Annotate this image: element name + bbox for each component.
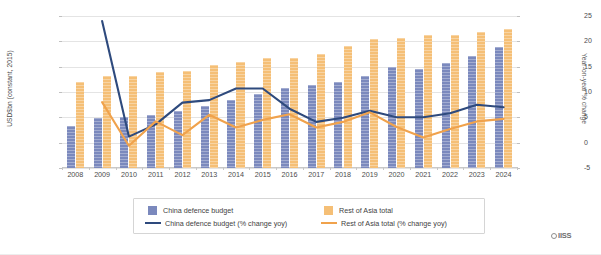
x-axis-tick-label: 2024 (490, 170, 517, 179)
x-axis-tick-label: 2014 (223, 170, 250, 179)
y-axis-right-tick-label: 5 (584, 113, 601, 121)
x-axis-tickmark (196, 167, 197, 170)
x-axis-tickmark (142, 167, 143, 170)
chart-legend: China defence budget Rest of Asia total … (133, 198, 485, 234)
y-axis-right-tickmark (517, 67, 520, 68)
legend-label-china-pct: China defence budget (% change yoy) (165, 219, 287, 228)
x-axis-tick-label: 2015 (249, 170, 276, 179)
x-axis-tick-label: 2008 (62, 170, 89, 179)
y-axis-right-tick-label: 0 (584, 139, 601, 147)
legend-swatch-china-budget (148, 206, 157, 215)
y-axis-right-tick-label: -5 (584, 164, 601, 172)
x-axis-tickmark (249, 167, 250, 170)
gridline (62, 168, 517, 169)
x-axis-tick-label: 2009 (89, 170, 116, 179)
iiss-logo-text: IISS (558, 231, 571, 240)
legend-label-china-budget: China defence budget (163, 206, 233, 215)
y-axis-right-tickmark (517, 41, 520, 42)
x-axis-tickmark (116, 167, 117, 170)
plot-area: 050100150200250300 -50510152025 (62, 16, 517, 168)
y-axis-left-tickmark (59, 67, 62, 68)
y-axis-right-tick-label: 10 (584, 88, 601, 96)
x-axis-tick-label: 2022 (437, 170, 464, 179)
x-axis-tickmark (383, 167, 384, 170)
x-axis-tick-label: 2020 (383, 170, 410, 179)
x-axis-tick-label: 2016 (276, 170, 303, 179)
y-axis-right-tickmark (517, 92, 520, 93)
y-axis-right-tickmark (517, 16, 520, 17)
x-axis-tickmark (463, 167, 464, 170)
circle-icon (551, 233, 557, 239)
x-axis-labels: 2008200920102011201220132014201520162017… (62, 170, 517, 184)
y-axis-right-tickmark (517, 143, 520, 144)
legend-label-asia-pct: Rest of Asia total (% change yoy) (341, 219, 447, 228)
y-axis-left-tickmark (59, 41, 62, 42)
x-axis-tickmark (62, 167, 63, 170)
x-axis-tick-label: 2011 (142, 170, 169, 179)
y-axis-left-tickmark (59, 16, 62, 17)
x-axis-tickmark (276, 167, 277, 170)
x-axis-tick-label: 2010 (116, 170, 143, 179)
y-axis-left-title: USD$bn (constant, 2015) (6, 29, 13, 149)
x-axis-tickmark (356, 167, 357, 170)
x-axis-tickmark (410, 167, 411, 170)
legend-label-asia-total: Rest of Asia total (339, 206, 393, 215)
y-axis-left-tickmark (59, 117, 62, 118)
y-axis-left-tickmark (59, 143, 62, 144)
x-axis-tickmark (223, 167, 224, 170)
y-axis-left-tickmark (59, 92, 62, 93)
x-axis-tickmark (437, 167, 438, 170)
x-axis-tickmark (89, 167, 90, 170)
x-axis-tick-label: 2013 (196, 170, 223, 179)
x-axis-tick-label: 2023 (463, 170, 490, 179)
y-axis-right-tickmark (517, 117, 520, 118)
x-axis-tick-label: 2017 (303, 170, 330, 179)
x-axis-tickmark (490, 167, 491, 170)
chart-figure: USD$bn (constant, 2015) Year-on-year % c… (0, 0, 601, 255)
y-axis-right-tick-label: 20 (584, 37, 601, 45)
x-axis-tickmark (169, 167, 170, 170)
legend-swatch-asia-total (324, 206, 333, 215)
line-asia-pct-change (102, 102, 504, 146)
legend-line-asia-pct (321, 222, 337, 224)
x-axis-tick-label: 2012 (169, 170, 196, 179)
x-axis-tick-label: 2021 (410, 170, 437, 179)
x-axis-tickmark (330, 167, 331, 170)
iiss-logo: IISS (551, 231, 571, 240)
x-axis-tickmark (517, 167, 518, 170)
x-axis-tickmark (303, 167, 304, 170)
line-layer (62, 16, 517, 168)
legend-line-china-pct (145, 222, 161, 224)
x-axis-tick-label: 2019 (356, 170, 383, 179)
y-axis-right-tick-label: 25 (584, 12, 601, 20)
y-axis-right-tick-label: 15 (584, 63, 601, 71)
x-axis-tick-label: 2018 (330, 170, 357, 179)
line-china-pct-change (102, 21, 504, 137)
